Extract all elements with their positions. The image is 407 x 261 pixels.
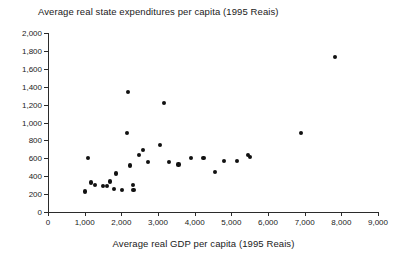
x-tick-label: 8,000	[331, 218, 351, 227]
x-tick	[195, 212, 196, 216]
x-tick-label: 5,000	[221, 218, 241, 227]
data-point	[112, 187, 116, 191]
x-tick-label: 6,000	[258, 218, 278, 227]
data-point	[235, 159, 239, 163]
y-tick-label: 2,000	[22, 29, 42, 38]
x-tick	[158, 212, 159, 216]
data-point	[131, 183, 135, 187]
x-tick-label: 2,000	[111, 218, 131, 227]
x-tick	[48, 212, 49, 216]
x-tick-label: 4,000	[185, 218, 205, 227]
data-point	[141, 148, 145, 152]
x-tick-label: 7,000	[295, 218, 315, 227]
x-tick-label: 0	[46, 218, 50, 227]
x-axis-line	[48, 212, 379, 213]
y-tick-label: 1,600	[22, 64, 42, 73]
data-point	[131, 188, 135, 192]
x-tick-label: 9,000	[368, 218, 388, 227]
x-tick-label: 3,000	[148, 218, 168, 227]
y-tick-label: 1,400	[22, 82, 42, 91]
y-tick-label: 1,800	[22, 46, 42, 55]
y-tick-label: 800	[29, 136, 42, 145]
x-tick-label: 1,000	[75, 218, 95, 227]
data-point	[120, 188, 124, 192]
x-tick	[378, 212, 379, 216]
data-point	[333, 55, 337, 59]
x-tick	[85, 212, 86, 216]
y-tick-label: 0	[38, 208, 42, 217]
y-tick-label: 400	[29, 172, 42, 181]
x-tick	[268, 212, 269, 216]
y-tick-label: 1,000	[22, 118, 42, 127]
x-tick	[341, 212, 342, 216]
scatter-chart-figure: Average real state expenditures per capi…	[0, 0, 407, 261]
data-point	[162, 101, 166, 105]
y-tick-label: 600	[29, 154, 42, 163]
x-tick	[305, 212, 306, 216]
chart-title: Average real state expenditures per capi…	[38, 6, 279, 17]
y-tick-label: 200	[29, 190, 42, 199]
data-point	[114, 171, 118, 175]
data-point	[146, 160, 150, 164]
data-point	[201, 156, 205, 160]
data-point	[158, 143, 162, 147]
x-tick	[121, 212, 122, 216]
data-point	[176, 162, 180, 166]
x-axis-label: Average real GDP per capita (1995 Reais)	[0, 238, 407, 249]
data-point	[128, 163, 132, 167]
x-tick	[231, 212, 232, 216]
y-tick-label: 1,200	[22, 100, 42, 109]
data-point	[213, 170, 217, 174]
data-point	[167, 160, 171, 164]
plot-area	[48, 33, 378, 212]
data-point	[105, 184, 109, 188]
